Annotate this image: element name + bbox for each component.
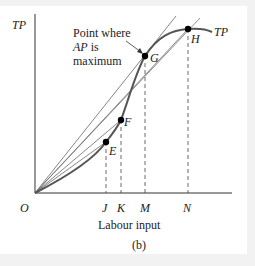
tick-k: K	[117, 202, 125, 214]
annotation-line1: Point where	[73, 27, 131, 39]
ray-through-e	[35, 142, 106, 193]
figure-caption: (b)	[132, 239, 146, 251]
tp-curve-label: TP	[214, 26, 228, 38]
point-g	[142, 53, 148, 59]
annotation-line2: AP is	[73, 41, 99, 53]
origin-label: O	[20, 202, 29, 214]
tp-curve	[35, 29, 212, 193]
arrowhead-icon	[137, 48, 143, 54]
point-g-label: G	[150, 52, 159, 64]
annotation-line3: maximum	[73, 55, 122, 67]
tick-m: M	[140, 202, 150, 214]
tick-n: N	[183, 202, 191, 214]
point-h-label: H	[191, 33, 200, 45]
tick-j: J	[102, 202, 107, 214]
point-e-label: E	[109, 145, 116, 157]
y-axis-label: TP	[12, 19, 26, 31]
x-axis-label: Labour input	[98, 219, 160, 231]
point-f-label: F	[124, 116, 131, 128]
